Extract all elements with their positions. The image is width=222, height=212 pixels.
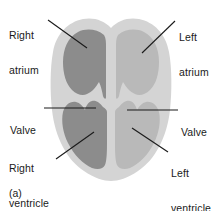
left-ventricle-chamber	[115, 101, 160, 169]
label-left-ventricle-line2: ventricle	[171, 203, 211, 212]
label-valve-right-text: Valve	[10, 125, 36, 137]
heart-diagram-figure: Right atrium Left atrium Valve Valve Rig…	[0, 0, 222, 211]
label-right-atrium-line1: Right	[9, 30, 39, 42]
label-left-atrium-line1: Left	[179, 32, 209, 44]
label-right-atrium-line2: atrium	[9, 65, 39, 77]
septum-valve-stem	[107, 84, 115, 175]
label-left-ventricle-line1: Left	[171, 168, 211, 180]
figure-caption: (a)	[9, 187, 22, 199]
label-right-ventricle-line2: ventricle	[9, 198, 49, 210]
right-ventricle-chamber	[62, 101, 107, 169]
label-left-atrium: Left atrium	[179, 9, 209, 101]
label-right-ventricle-line1: Right	[9, 163, 49, 175]
label-right-ventricle: Right ventricle	[9, 140, 49, 211]
label-left-atrium-line2: atrium	[179, 67, 209, 79]
label-left-ventricle: Left ventricle	[171, 145, 211, 211]
label-right-atrium: Right atrium	[9, 7, 39, 99]
label-valve-left-text: Valve	[181, 127, 207, 139]
